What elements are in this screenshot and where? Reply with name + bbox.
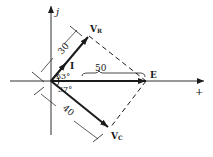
angle-53-label: 53° bbox=[56, 72, 70, 81]
magnitude-40-label: 40 bbox=[61, 103, 76, 118]
e-label: E bbox=[150, 70, 157, 80]
vc-label: VC bbox=[110, 131, 123, 141]
dashed-vc-to-e bbox=[110, 81, 146, 128]
brace-e bbox=[82, 71, 145, 77]
magnitude-30-label: 30 bbox=[56, 41, 71, 56]
vr-label: VR bbox=[89, 24, 103, 34]
dashed-vr-to-e bbox=[89, 36, 146, 81]
imag-axis-label: j bbox=[54, 6, 59, 17]
phasor-diagram: j + VR E VC I 53° 37° 30 50 40 bbox=[0, 0, 213, 157]
real-axis-label: + bbox=[195, 86, 203, 97]
magnitude-50-label: 50 bbox=[95, 63, 107, 73]
i-label: I bbox=[70, 61, 74, 71]
angle-37-label: 37° bbox=[58, 85, 72, 94]
